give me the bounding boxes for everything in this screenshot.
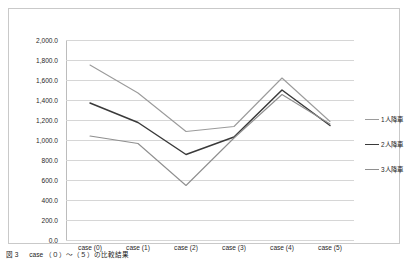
y-axis-tick-label: 1,200.0	[36, 117, 58, 124]
y-axis-tick-label: 600.0	[41, 177, 58, 184]
series-lines	[66, 40, 354, 240]
y-axis-tick-label: 1,600.0	[36, 77, 58, 84]
legend-entry[interactable]: 2人降車	[365, 132, 411, 157]
chart-frame: 2,000.01,800.01,600.01,400.01,200.01,000…	[8, 8, 400, 244]
legend-label: 3人降車	[381, 166, 403, 174]
y-axis-tick-label: 200.0	[41, 217, 58, 224]
plot-area	[66, 40, 354, 240]
legend-label: 1人降車	[381, 116, 403, 124]
chart-legend: 1人降車2人降車3人降車	[365, 107, 411, 182]
y-axis-tick-label: 1,000.0	[36, 137, 58, 144]
y-axis-tick-labels: 2,000.01,800.01,600.01,400.01,200.01,000…	[17, 40, 62, 240]
legend-line-swatch	[365, 119, 379, 120]
series-line	[90, 95, 330, 186]
legend-entry[interactable]: 1人降車	[365, 107, 411, 132]
series-line	[90, 90, 330, 155]
figure-caption: 図 3 case （０）～（５）の比較結果	[6, 250, 406, 259]
y-axis-tick-label: 800.0	[41, 157, 58, 164]
y-axis-tick-label: 400.0	[41, 197, 58, 204]
legend-line-swatch	[365, 144, 379, 145]
y-axis-tick-label: 1,400.0	[36, 97, 58, 104]
y-axis-tick-label: 2,000.0	[36, 37, 58, 44]
figure-container: 2,000.01,800.01,600.01,400.01,200.01,000…	[0, 0, 411, 265]
legend-entry[interactable]: 3人降車	[365, 157, 411, 182]
y-axis-tick-label: 1,800.0	[36, 57, 58, 64]
legend-label: 2人降車	[381, 141, 403, 149]
y-axis-tick-label: 0.0	[49, 237, 58, 244]
gridline	[66, 240, 354, 241]
legend-line-swatch	[365, 169, 379, 170]
